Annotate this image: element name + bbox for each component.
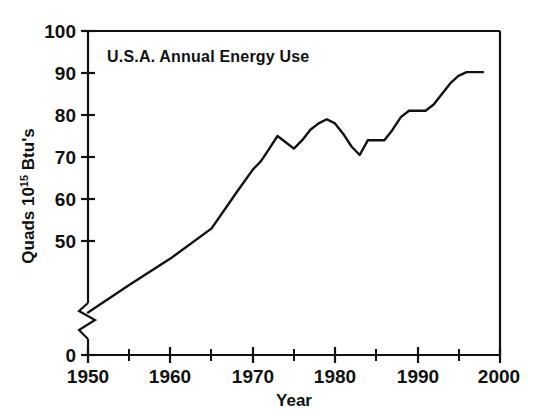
x-tick-label-2000: 2000 bbox=[478, 366, 520, 387]
x-tick-label-1980: 1980 bbox=[314, 366, 356, 387]
y-tick-label-70: 70 bbox=[55, 147, 76, 168]
x-tick-label-1960: 1960 bbox=[149, 366, 191, 387]
y-tick-label-50: 50 bbox=[55, 231, 76, 252]
y-tick-label-80: 80 bbox=[55, 105, 76, 126]
y-axis-title-group: Quads 1015 Btu's bbox=[18, 128, 38, 263]
plot-title: U.S.A. Annual Energy Use bbox=[107, 48, 309, 65]
x-tick-label-1990: 1990 bbox=[397, 366, 439, 387]
y-axis-title-superscript: 15 bbox=[18, 175, 30, 187]
x-tick-label-1950: 1950 bbox=[67, 366, 109, 387]
x-tick-label-1970: 1970 bbox=[232, 366, 274, 387]
y-tick-label-0: 0 bbox=[65, 345, 76, 366]
x-axis-title: Year bbox=[276, 391, 312, 410]
y-axis-title-tail: Btu's bbox=[19, 128, 38, 175]
chart-figure: 100 90 80 70 60 50 0 1950 196 bbox=[0, 0, 537, 412]
y-axis-title: Quads 1015 Btu's bbox=[18, 128, 38, 263]
y-tick-label-60: 60 bbox=[55, 189, 76, 210]
y-axis-title-main: Quads 10 bbox=[19, 187, 38, 264]
y-tick-label-100: 100 bbox=[44, 21, 76, 42]
y-tick-label-90: 90 bbox=[55, 63, 76, 84]
